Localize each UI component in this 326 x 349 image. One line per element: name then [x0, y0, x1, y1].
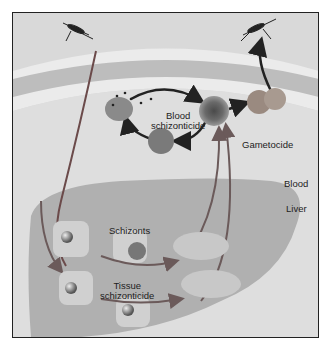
label-line: schizonticide — [100, 290, 154, 301]
ruptured-schizont-2 — [181, 270, 241, 298]
diagram-frame: Bloodschizonticide Gametocide Blood Live… — [12, 12, 319, 338]
mosquito-left-icon — [63, 23, 93, 41]
blood-label: Blood — [284, 179, 308, 189]
ruptured-schizont-1 — [173, 232, 229, 260]
schizonts-label: Schizonts — [109, 226, 150, 236]
trophozoite-rbc — [148, 128, 174, 154]
liver-label: Liver — [286, 204, 307, 214]
blood-schizonticide-label: Bloodschizonticide — [151, 111, 205, 131]
mosquito-right-icon — [241, 19, 276, 41]
tissue-schizonticide-label: Tissueschizonticide — [100, 281, 154, 301]
malaria-lifecycle-illustration — [13, 13, 318, 337]
gametocide-label: Gametocide — [242, 140, 293, 150]
label-line: schizonticide — [151, 120, 205, 131]
ruptured-rbc — [105, 97, 133, 121]
